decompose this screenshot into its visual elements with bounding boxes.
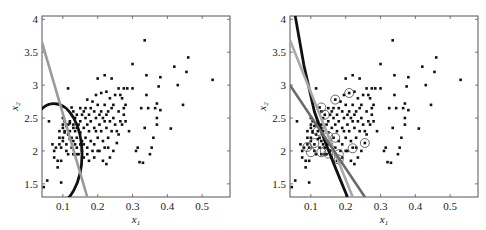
- data-point: [67, 87, 70, 90]
- data-point: [170, 127, 173, 130]
- data-point: [421, 65, 424, 68]
- data-point: [126, 87, 129, 90]
- data-point: [74, 130, 77, 133]
- data-point: [393, 94, 396, 97]
- data-point: [358, 130, 361, 133]
- data-point: [79, 120, 82, 123]
- data-point: [353, 113, 356, 116]
- data-point: [459, 79, 462, 82]
- plot-frame: [42, 16, 230, 197]
- data-point: [95, 94, 98, 97]
- x-tick-label: 0.3: [126, 200, 140, 212]
- data-point: [327, 107, 330, 110]
- data-point: [62, 123, 65, 126]
- data-point: [365, 133, 368, 136]
- data-point: [107, 136, 110, 139]
- data-point: [157, 85, 160, 88]
- data-point: [334, 123, 337, 126]
- data-point: [369, 97, 372, 100]
- data-point: [76, 113, 79, 116]
- data-point: [63, 130, 66, 133]
- data-point: [112, 104, 115, 107]
- data-point: [185, 71, 188, 74]
- data-point: [350, 140, 353, 143]
- data-point: [135, 150, 138, 153]
- data-point: [62, 127, 65, 130]
- data-point: [360, 104, 363, 107]
- data-point: [124, 120, 127, 123]
- data-point: [131, 63, 134, 66]
- data-point: [353, 127, 356, 130]
- data-point: [353, 163, 356, 166]
- data-point: [402, 107, 405, 110]
- data-point: [62, 140, 65, 143]
- data-point: [154, 107, 157, 110]
- data-point: [343, 117, 346, 120]
- data-point: [324, 113, 327, 116]
- data-point: [93, 127, 96, 130]
- y-tick-label: 4: [281, 13, 287, 25]
- data-point: [117, 87, 120, 90]
- data-point: [336, 113, 339, 116]
- data-point: [62, 136, 65, 139]
- data-point: [103, 104, 106, 107]
- data-point: [76, 146, 79, 149]
- data-point: [102, 117, 105, 120]
- data-point: [404, 117, 407, 120]
- data-point: [149, 153, 152, 156]
- data-point: [294, 179, 297, 182]
- data-point: [173, 65, 176, 68]
- y-tick-label: 1.5: [24, 178, 38, 190]
- data-point: [147, 107, 150, 110]
- data-point: [357, 97, 360, 100]
- data-point: [70, 106, 73, 109]
- data-point: [348, 92, 351, 95]
- data-point: [348, 130, 351, 133]
- data-point: [367, 94, 370, 97]
- data-point: [58, 136, 61, 139]
- data-point: [350, 160, 353, 163]
- data-point: [393, 74, 396, 77]
- x-tick-label: 0.2: [339, 200, 353, 212]
- data-point: [112, 117, 115, 120]
- plot-frame: [290, 16, 478, 197]
- data-point: [322, 143, 325, 146]
- data-point: [357, 156, 360, 159]
- data-point: [355, 136, 358, 139]
- data-point: [404, 123, 407, 126]
- data-point: [390, 161, 393, 164]
- data-point: [150, 146, 153, 149]
- data-point: [124, 104, 127, 107]
- data-point: [119, 120, 122, 123]
- data-point: [56, 160, 59, 163]
- data-point: [95, 117, 98, 120]
- data-point: [93, 110, 96, 113]
- data-point: [116, 130, 119, 133]
- data-point: [112, 150, 115, 153]
- data-point: [371, 87, 374, 90]
- data-point: [330, 127, 333, 130]
- x-tick-label: 0.3: [374, 200, 388, 212]
- data-point: [430, 104, 433, 107]
- data-point: [371, 107, 374, 110]
- data-point: [176, 84, 179, 87]
- data-point: [315, 87, 318, 90]
- data-point: [327, 120, 330, 123]
- data-point: [351, 120, 354, 123]
- data-point: [308, 181, 311, 184]
- data-point: [86, 146, 89, 149]
- data-point: [407, 76, 410, 79]
- data-point: [123, 107, 126, 110]
- data-point: [341, 143, 344, 146]
- data-point: [74, 143, 77, 146]
- data-point: [156, 102, 159, 105]
- y-tick-label: 1.5: [272, 178, 286, 190]
- data-point: [114, 123, 117, 126]
- x-tick-label: 0.2: [91, 200, 105, 212]
- data-point: [105, 127, 108, 130]
- data-point: [143, 127, 146, 130]
- data-point: [60, 160, 63, 163]
- data-point: [308, 160, 311, 163]
- y-tick-label: 3: [281, 79, 287, 91]
- data-point: [350, 117, 353, 120]
